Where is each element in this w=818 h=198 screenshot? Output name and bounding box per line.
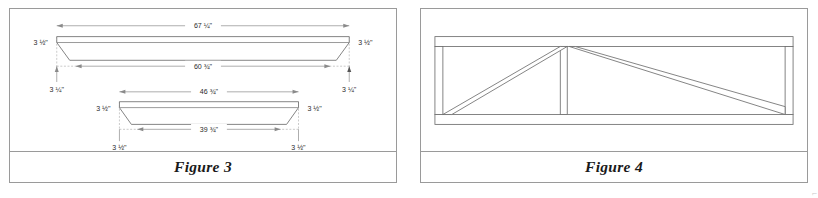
upper-board-outline <box>57 37 349 61</box>
right-diagonal-brace <box>569 46 785 114</box>
lower-right-height-label: 3 ½" <box>307 105 322 112</box>
left-post <box>435 46 443 114</box>
center-post <box>560 46 567 114</box>
upper-left-bevel-leader <box>55 66 59 82</box>
figure-4-caption: Figure 4 <box>585 158 643 176</box>
figures-page: 67 ¼" 60 ¾" 3 ½" 3 ½" <box>0 0 818 198</box>
upper-right-bevel-leader <box>347 66 351 82</box>
upper-bottom-length-label: 60 ¾" <box>194 63 213 70</box>
right-post <box>785 46 793 114</box>
figure-3-caption: Figure 3 <box>174 158 232 176</box>
lower-top-length-label: 46 ¾" <box>200 88 219 95</box>
lower-left-bevel-label: 3 ½" <box>112 144 127 151</box>
upper-top-length-label: 67 ¼" <box>194 22 213 29</box>
bottom-rail <box>435 115 793 125</box>
figure-4-caption-bar: Figure 4 <box>421 151 807 182</box>
upper-right-bevel-label: 3 ¼" <box>342 86 357 93</box>
page-corner-mark: ⌐ <box>812 188 817 198</box>
upper-top-dimension: 67 ¼" <box>57 20 349 31</box>
figure-3-caption-bar: Figure 3 <box>10 151 396 182</box>
figure-4-svg <box>421 9 807 152</box>
lower-bottom-dimension: 39 ¾" <box>137 124 280 135</box>
figure-3-svg: 67 ¼" 60 ¾" 3 ½" 3 ½" <box>10 9 396 152</box>
figure-4-drawing <box>421 9 807 152</box>
lower-right-bevel-label: 3 ½" <box>291 144 306 151</box>
upper-left-bevel-label: 3 ¼" <box>50 86 65 93</box>
left-diagonal-brace <box>443 46 567 114</box>
lower-left-height-label: 3 ½" <box>96 105 111 112</box>
figure-3-drawing: 67 ¼" 60 ¾" 3 ½" 3 ½" <box>10 9 396 152</box>
lower-bottom-length-label: 39 ¾" <box>200 126 219 133</box>
top-rail <box>435 37 793 47</box>
lower-board-outline <box>119 102 298 125</box>
figure-4-panel: Figure 4 <box>420 8 808 183</box>
upper-bottom-dimension: 60 ¾" <box>76 61 331 72</box>
lower-top-dimension: 46 ¾" <box>119 86 298 97</box>
upper-right-height-label: 3 ½" <box>358 40 373 47</box>
upper-left-height-label: 3 ½" <box>34 40 49 47</box>
figure-3-panel: 67 ¼" 60 ¾" 3 ½" 3 ½" <box>9 8 397 183</box>
